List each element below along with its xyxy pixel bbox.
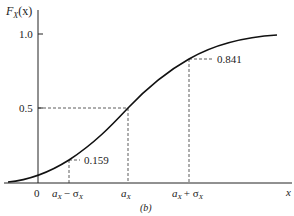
guide-lines — [38, 59, 213, 183]
annotation-0841: 0.841 — [217, 53, 242, 65]
x-tick-0: 0 — [34, 187, 40, 199]
y-tick-label-05: 0.5 — [19, 102, 33, 114]
x-tick-a-minus-sigma: aX− σX — [52, 187, 84, 201]
figure: FX(x) 1.0 0.5 0.159 0.841 0 aX− σX aX aX… — [0, 0, 294, 216]
figure-caption: (b) — [140, 202, 152, 214]
annotation-0159: 0.159 — [84, 154, 109, 166]
y-tick-label-1: 1.0 — [19, 28, 33, 40]
y-axis-label: FX(x) — [5, 4, 32, 20]
x-tick-a: aX — [121, 187, 132, 201]
cdf-plot: FX(x) 1.0 0.5 0.159 0.841 0 aX− σX aX aX… — [0, 0, 294, 216]
x-axis-label: x — [285, 186, 291, 198]
x-tick-a-plus-sigma: aX+ σX — [172, 187, 204, 201]
